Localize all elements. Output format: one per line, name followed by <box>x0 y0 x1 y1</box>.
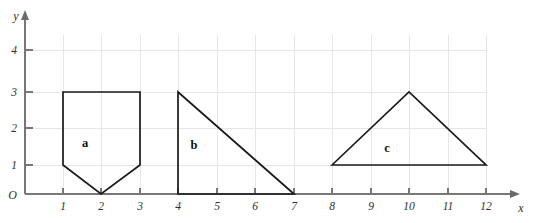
vertical-gridlines <box>63 35 486 194</box>
x-tick-label-5: 5 <box>214 200 220 212</box>
y-tick-marks <box>25 50 33 165</box>
geometry-figure: 4 3 2 1 O 1 2 3 4 5 6 7 8 9 10 11 12 y x… <box>0 0 537 223</box>
plot-canvas: 4 3 2 1 O 1 2 3 4 5 6 7 8 9 10 11 12 y x… <box>0 0 537 223</box>
x-tick-labels: 1 2 3 4 5 6 7 8 9 10 11 12 <box>60 200 492 212</box>
x-tick-label-9: 9 <box>368 200 374 212</box>
y-axis-label: y <box>12 9 19 23</box>
shape-c-label: c <box>384 141 390 155</box>
x-tick-label-4: 4 <box>175 200 181 212</box>
x-axis-label: x <box>517 201 524 215</box>
y-tick-label-3: 3 <box>10 86 17 98</box>
x-tick-label-10: 10 <box>403 200 415 212</box>
x-tick-label-3: 3 <box>136 200 143 212</box>
y-tick-label-2: 2 <box>11 122 17 134</box>
x-tick-label-6: 6 <box>252 200 258 212</box>
x-tick-label-8: 8 <box>329 200 335 212</box>
origin-label: O <box>8 188 17 202</box>
x-tick-marks <box>63 188 486 194</box>
x-tick-label-7: 7 <box>291 200 298 212</box>
x-tick-label-11: 11 <box>443 200 454 212</box>
x-axis-arrow-icon <box>510 190 520 198</box>
shape-a-label: a <box>82 136 89 150</box>
x-tick-label-12: 12 <box>480 200 492 212</box>
shape-b-label: b <box>191 138 198 152</box>
shapes-group <box>63 92 486 194</box>
x-tick-label-1: 1 <box>60 200 66 212</box>
axes-group <box>21 10 520 198</box>
y-axis-arrow-icon <box>21 10 29 20</box>
x-tick-label-2: 2 <box>98 200 104 212</box>
y-tick-label-1: 1 <box>11 159 17 171</box>
y-tick-labels: 4 3 2 1 O <box>8 44 17 202</box>
y-tick-label-4: 4 <box>11 44 17 56</box>
